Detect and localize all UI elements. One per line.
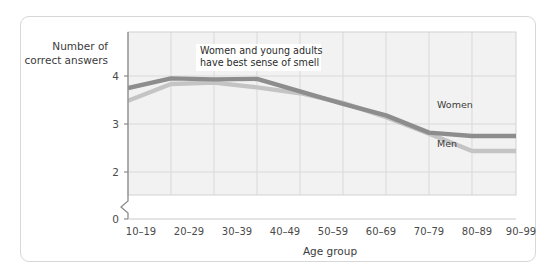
x-tick-label-8: 90–99 (506, 226, 536, 237)
x-tick-label-4: 50–59 (318, 226, 348, 237)
x-tick-label-7: 80–89 (462, 226, 492, 237)
x-tick-label-3: 40–49 (270, 226, 300, 237)
x-axis-title: Age group (303, 245, 357, 257)
smell-line-chart: 4 3 2 0 Number of correct answers 10–19 … (0, 0, 557, 279)
y-axis-spine (121, 32, 128, 219)
y-axis-title-line2: correct answers (25, 54, 109, 66)
chart-figure: 4 3 2 0 Number of correct answers 10–19 … (0, 0, 557, 279)
y-axis-title-line1: Number of (52, 40, 108, 52)
y-tick-label-4: 4 (112, 70, 119, 82)
x-tick-label-0: 10–19 (126, 226, 156, 237)
y-tick-label-2: 2 (112, 166, 119, 178)
y-tick-label-3: 3 (112, 118, 119, 130)
x-tick-label-1: 20–29 (174, 226, 204, 237)
x-tick-label-6: 70–79 (414, 226, 444, 237)
x-tick-label-5: 60–69 (366, 226, 396, 237)
x-tick-label-2: 30–39 (222, 226, 252, 237)
plot-background (128, 32, 516, 195)
annotation-line-1: Women and young adults (200, 45, 323, 56)
annotation-line-2: have best sense of smell (200, 57, 319, 68)
y-tick-label-0: 0 (112, 213, 119, 225)
series-label-women: Women (437, 99, 473, 110)
annotation-callout: Women and young adults have best sense o… (196, 44, 323, 71)
series-label-men: Men (437, 138, 457, 149)
